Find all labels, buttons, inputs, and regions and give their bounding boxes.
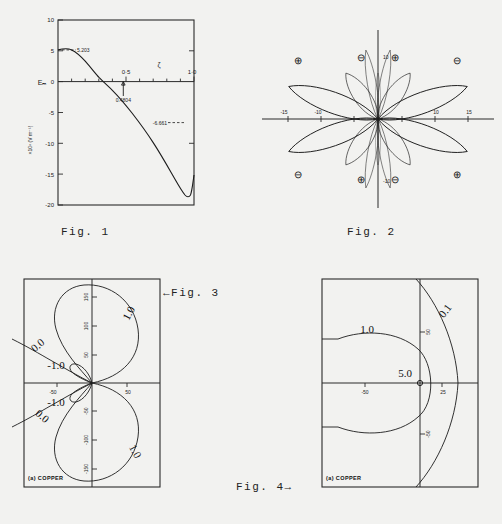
fig3-caption-arrow: ← [163,287,171,299]
fig2-sign-plus: ⊕ [294,55,302,66]
fig1-ytick-label: 0 [51,79,55,85]
fig3-chart: 150 100 50 -50 -100 -150 -50 50 1.0 0.0 … [22,277,162,489]
fig3-contour-label: -1.0 [47,359,65,371]
fig4-chart: 50 -50 -50 25 0.1 1.0 5.0 (a) COPPER [320,277,480,489]
fig4-x-ticks: -50 25 [361,383,446,395]
figure-4: 50 -50 -50 25 0.1 1.0 5.0 (a) COPPER [320,277,480,489]
fig2-sign-minus: ⊖ [391,174,399,185]
fig1-ytick-label: -20 [45,202,54,208]
fig1-annotation-peak: 5.203 [77,47,90,53]
fig4-caption: Fig. 4→ [236,481,293,493]
fig2-caption: Fig. 2 [347,226,396,238]
fig3-contour-label: 1.0 [120,304,137,322]
fig1-ytick-label: -10 [45,141,54,147]
fig2-sign-plus: ⊕ [357,174,365,185]
fig1-annotations: 5.203 0.4804 -6.661 [62,47,186,126]
fig1-y-symbol: Eₘ [38,79,47,86]
fig1-annotation-level: -6.661 [153,120,167,126]
fig4-caption-text: Fig. 4 [236,481,285,493]
fig2-sign-minus: ⊖ [453,55,461,66]
fig1-x-axis-label: ζ [157,61,160,69]
fig2-sign-plus: ⊕ [453,169,461,180]
fig2-xtick-label: 15 [466,109,472,115]
fig3-ytick-label: 50 [83,352,89,358]
fig1-ytick-label: -15 [45,172,54,178]
figure-2: -15 -10 10 15 10 -10 ⊕ [258,28,498,210]
figure-3: 150 100 50 -50 -100 -150 -50 50 1.0 0.0 … [22,277,162,489]
fig1-xtick-label: 1·0 [188,69,197,75]
fig3-caption: ←Fig. 3 [163,287,220,299]
fig3-ytick-label: 150 [83,293,89,302]
fig1-x-axis: 0·5 1·0 ζ [72,61,197,82]
fig4-panel-label: (a) COPPER [326,475,361,481]
fig3-contour-lower [54,383,138,481]
fig3-contour-upper [54,285,138,383]
fig4-xtick-label: -50 [361,389,368,395]
fig4-contour-label: 5.0 [398,367,412,379]
fig3-panel-label: (a) COPPER [28,475,63,481]
fig1-ytick-label: -5 [49,110,55,116]
fig2-xtick-label: -15 [280,109,287,115]
fig2-chart: -15 -10 10 15 10 -10 ⊕ [258,28,498,210]
fig4-ytick-label: 50 [425,329,431,335]
fig2-sign-minus: ⊖ [294,169,302,180]
fig4-contour-labels: 0.1 1.0 5.0 [360,301,454,379]
fig3-caption-text: Fig. 3 [171,287,220,299]
fig1-xtick-label: 0·5 [122,69,131,75]
fig3-xtick-label: -50 [49,389,56,395]
fig3-xtick-label: 50 [125,389,131,395]
fig3-contour-label: -1.0 [47,396,65,408]
fig4-xtick-label: 25 [440,389,446,395]
fig3-ytick-label: -150 [83,464,89,474]
fig4-ytick-label: -50 [425,430,431,437]
fig2-sign-plus: ⊕ [391,52,399,63]
fig1-annotation-zero: 0.4804 [116,97,132,103]
fig4-caption-arrow: → [285,481,293,493]
fig3-ytick-label: 100 [83,322,89,331]
fig1-ytick-label: 10 [47,17,54,23]
fig3-ytick-label: -100 [83,435,89,445]
fig3-contour-label: 0.0 [33,407,52,425]
fig1-chart: 10 5 0 -5 -10 -15 -20 0·5 1·0 ζ Eₘ × [16,10,206,215]
fig3-ytick-label: -50 [83,407,89,414]
fig1-ytick-label: 5 [51,48,55,54]
fig4-contour-label: 1.0 [360,323,374,335]
fig1-caption: Fig. 1 [61,226,110,238]
figure-1: 10 5 0 -5 -10 -15 -20 0·5 1·0 ζ Eₘ × [16,10,206,215]
fig1-y-axis-label: ×10⁸ (V m⁻¹) [27,125,33,154]
fig4-contour-label: 0.1 [436,301,454,319]
fig2-sign-minus: ⊖ [357,52,365,63]
fig3-contour-label: 1.0 [127,442,144,460]
fig2-xtick-label: -10 [314,109,321,115]
fig3-contour-label: 0.0 [28,336,47,354]
fig1-y-axis: 10 5 0 -5 -10 -15 -20 [45,17,194,208]
